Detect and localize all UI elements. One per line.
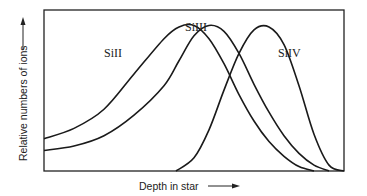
series-line-siii <box>44 24 314 171</box>
ionization-chart: SiII SiIII SiIV Depth in star Relative n… <box>0 0 367 196</box>
x-axis-arrow <box>208 184 240 189</box>
series-label-siiv: SiIV <box>278 46 301 60</box>
series-label-siiii: SiIII <box>185 20 207 34</box>
x-axis-label: Depth in star <box>139 180 199 192</box>
y-axis-arrow <box>21 17 26 50</box>
plot-frame <box>44 10 344 171</box>
series-label-siii: SiII <box>104 46 122 60</box>
y-axis-label: Relative numbers of ions <box>17 45 29 161</box>
series-line-siiv <box>176 26 344 171</box>
